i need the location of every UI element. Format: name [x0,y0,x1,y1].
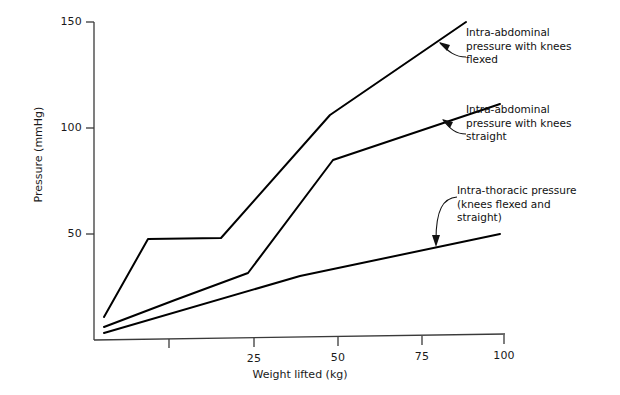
annotation-leader-2 [436,197,457,240]
x-tick-label-75: 75 [402,350,442,363]
data-series-group [104,22,500,333]
x-axis-title: Weight lifted (kg) [200,368,400,381]
chart-figure: 150 100 50 25 50 75 100 Pressure (mmHg) … [0,0,620,395]
annotation-intra-thoracic: Intra-thoracic pressure (knees flexed an… [457,184,577,225]
annotation-arrowhead-0 [439,42,450,51]
series-line-intra-abdominal-knees-straight [104,104,500,327]
x-tick-label-100: 100 [484,349,524,362]
x-axis-line [94,334,505,340]
axes [86,22,505,348]
x-tick-label-50: 50 [318,351,358,364]
annotation-intra-abdominal-knees-flexed: Intra-abdominal pressure with knees flex… [466,26,571,67]
annotation-arrowhead-2 [432,235,440,247]
series-line-intra-abdominal-knees-flexed [104,22,466,317]
annotation-intra-abdominal-knees-straight: Intra-abdominal pressure with knees stra… [466,103,571,144]
y-axis-title: Pressure (mmHg) [32,95,45,215]
y-tick-label-50: 50 [44,227,82,240]
y-tick-label-150: 150 [44,15,82,28]
x-tick-label-25: 25 [234,352,274,365]
y-tick-label-100: 100 [44,121,82,134]
series-line-intra-thoracic [104,234,500,333]
